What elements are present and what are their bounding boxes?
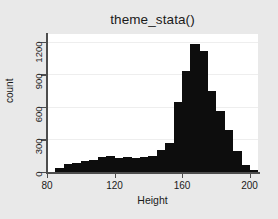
x-axis-tick-label: 80 <box>32 180 62 191</box>
x-axis-tick <box>182 173 183 178</box>
page-title: theme_stata() <box>47 12 258 27</box>
y-axis-tick-label: 600 <box>33 106 44 144</box>
y-axis-tick-label: 300 <box>33 139 44 177</box>
x-axis-tick-label: 200 <box>235 180 265 191</box>
y-axis-tick-label: 1200 <box>33 41 44 79</box>
y-axis-title: count <box>4 79 15 103</box>
x-axis-tick <box>47 173 48 178</box>
gridline <box>47 107 258 108</box>
chart-figure: theme_stata() 0300600900120080120160200 … <box>0 0 278 219</box>
x-axis-tick-label: 160 <box>167 180 197 191</box>
gridline <box>47 42 258 43</box>
x-axis-tick <box>115 173 116 178</box>
gridline <box>47 74 258 75</box>
x-axis-line <box>46 172 260 174</box>
x-axis-tick-label: 120 <box>100 180 130 191</box>
plot-area <box>47 34 258 172</box>
x-axis-tick <box>250 173 251 178</box>
y-axis-line <box>46 33 48 173</box>
x-axis-title: Height <box>47 194 258 206</box>
